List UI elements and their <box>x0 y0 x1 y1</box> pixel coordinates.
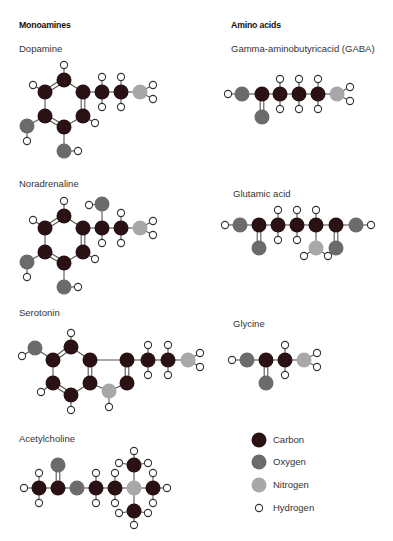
hydrogen-atom <box>60 61 67 68</box>
hydrogen-atom <box>85 201 92 208</box>
hydrogen-atom <box>98 73 105 80</box>
hydrogen-atom <box>105 403 112 410</box>
hydrogen-atom <box>224 90 231 97</box>
hydrogen-atom <box>276 105 283 112</box>
hydrogen-atom <box>23 273 30 280</box>
carbon-atom <box>57 73 72 88</box>
carbon-atom <box>32 481 47 496</box>
oxygen-atom <box>28 341 43 356</box>
nitrogen-atom <box>127 481 142 496</box>
carbon-atom <box>108 481 123 496</box>
hydrogen-atom <box>346 97 353 104</box>
legend-swatch-carbon <box>252 433 267 448</box>
hydrogen-atom <box>274 236 281 243</box>
oxygen-atom <box>233 218 248 233</box>
carbon-atom <box>255 87 270 102</box>
nitrogen-atom <box>297 353 312 368</box>
carbon-atom <box>114 221 129 236</box>
hydrogen-atom <box>346 83 353 90</box>
oxygen-atom <box>255 110 270 125</box>
hydrogen-atom <box>117 209 124 216</box>
legend-swatch-hydrogen <box>255 504 262 511</box>
hydrogen-atom <box>149 469 156 476</box>
carbon-atom <box>76 85 91 100</box>
carbon-atom <box>146 481 161 496</box>
legend <box>252 433 267 512</box>
hydrogen-atom <box>324 252 331 259</box>
molecule-serotonin <box>18 329 203 413</box>
hydrogen-atom <box>92 499 99 506</box>
hydrogen-atom <box>313 363 320 370</box>
carbon-atom <box>64 340 79 355</box>
nitrogen-atom <box>330 87 345 102</box>
hydrogen-atom <box>196 363 203 370</box>
molecule-acetylcholine <box>20 447 170 528</box>
hydrogen-atom <box>67 406 74 413</box>
carbon-atom <box>95 221 110 236</box>
carbon-atom <box>57 209 72 224</box>
oxygen-atom <box>235 87 250 102</box>
oxygen-atom <box>252 241 267 256</box>
carbon-atom <box>51 481 66 496</box>
carbon-atom <box>127 458 142 473</box>
legend-label-nitrogen: Nitrogen <box>273 479 309 490</box>
nitrogen-atom <box>102 384 117 399</box>
hydrogen-atom <box>67 329 74 336</box>
hydrogen-atom <box>196 349 203 356</box>
molecule-gamma-aminobutyricacid-gaba <box>224 75 353 124</box>
oxygen-atom <box>259 376 274 391</box>
oxygen-atom <box>57 144 72 159</box>
hydrogen-atom <box>29 216 36 223</box>
carbon-atom <box>311 87 326 102</box>
hydrogen-atom <box>117 103 124 110</box>
hydrogen-atom <box>295 105 302 112</box>
carbon-atom <box>252 218 267 233</box>
hydrogen-atom <box>115 459 122 466</box>
hydrogen-atom <box>149 231 156 238</box>
legend-label-oxygen: Oxygen <box>273 456 306 467</box>
hydrogen-atom <box>314 105 321 112</box>
hydrogen-atom <box>276 75 283 82</box>
carbon-atom <box>76 245 91 260</box>
hydrogen-atom <box>293 206 300 213</box>
hydrogen-atom <box>144 371 151 378</box>
oxygen-atom <box>20 119 35 134</box>
molecule-noradrenaline <box>20 197 157 295</box>
hydrogen-atom <box>164 341 171 348</box>
hydrogen-atom <box>98 103 105 110</box>
carbon-atom <box>292 87 307 102</box>
carbon-atom <box>95 85 110 100</box>
legend-swatch-nitrogen <box>252 478 267 493</box>
molecule-diagrams <box>0 0 393 541</box>
carbon-atom <box>57 120 72 135</box>
oxygen-atom <box>57 280 72 295</box>
hydrogen-atom <box>293 236 300 243</box>
carbon-atom <box>38 109 53 124</box>
nitrogen-atom <box>133 85 148 100</box>
carbon-atom <box>127 504 142 519</box>
hydrogen-atom <box>18 352 25 359</box>
carbon-atom <box>46 353 61 368</box>
hydrogen-atom <box>111 499 118 506</box>
oxygen-atom <box>20 255 35 270</box>
hydrogen-atom <box>281 371 288 378</box>
carbon-atom <box>76 109 91 124</box>
carbon-atom <box>161 353 176 368</box>
oxygen-atom <box>51 458 66 473</box>
hydrogen-atom <box>92 469 99 476</box>
carbon-atom <box>83 353 98 368</box>
nitrogen-atom <box>181 353 196 368</box>
hydrogen-atom <box>23 137 30 144</box>
legend-swatch-oxygen <box>252 455 267 470</box>
hydrogen-atom <box>228 356 235 363</box>
molecule-dopamine <box>20 61 157 158</box>
hydrogen-atom <box>117 73 124 80</box>
hydrogen-atom <box>91 119 98 126</box>
hydrogen-atom <box>164 371 171 378</box>
carbon-atom <box>290 218 305 233</box>
carbon-atom <box>329 218 344 233</box>
carbon-atom <box>38 221 53 236</box>
carbon-atom <box>64 388 79 403</box>
legend-label-carbon: Carbon <box>273 434 304 445</box>
carbon-atom <box>271 218 286 233</box>
